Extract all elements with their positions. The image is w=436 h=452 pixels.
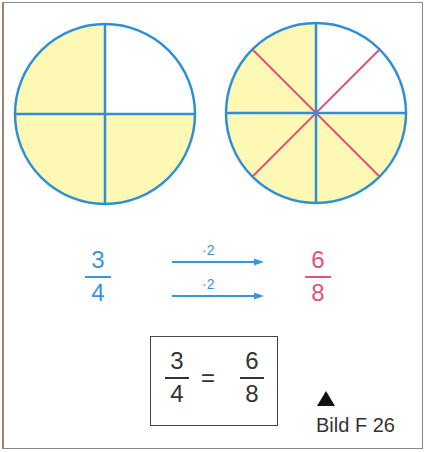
arrow-right-icon: [172, 259, 264, 266]
equation-right-numerator: 6: [238, 348, 266, 374]
left-denominator: 4: [84, 280, 112, 306]
equation-right-fraction: 6 8: [238, 348, 266, 407]
fraction-bar: [165, 377, 189, 379]
right-numerator: 6: [304, 247, 332, 273]
left-numerator: 3: [84, 247, 112, 273]
equation-right-denominator: 8: [238, 381, 266, 407]
circle-eighths: [226, 23, 406, 203]
triangle-up-icon: [317, 391, 335, 406]
right-denominator: 8: [304, 280, 332, 306]
fraction-circles: [0, 0, 436, 220]
equals-sign: =: [201, 364, 215, 392]
arrows: [170, 255, 270, 305]
equation-left-denominator: 4: [163, 381, 191, 407]
arrow-right-icon: [172, 293, 264, 300]
fraction-bar: [305, 276, 331, 278]
left-fraction: 3 4: [84, 247, 112, 306]
circle-quarters: [15, 24, 195, 204]
fraction-bar: [85, 276, 111, 278]
figure-caption: Bild F 26: [316, 414, 395, 437]
right-fraction: 6 8: [304, 247, 332, 306]
equation-left-fraction: 3 4: [163, 348, 191, 407]
fraction-bar: [240, 377, 264, 379]
equation-left-numerator: 3: [163, 348, 191, 374]
